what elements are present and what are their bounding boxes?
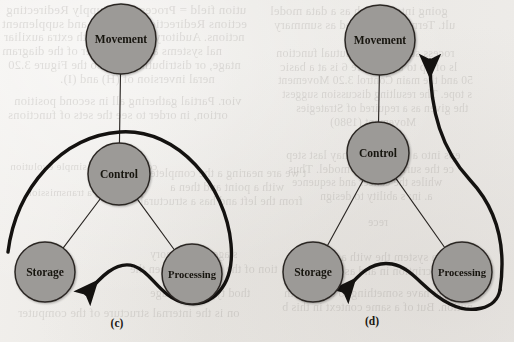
node-control-c[interactable]: Control	[88, 143, 150, 205]
node-label-movement: Movement	[95, 33, 148, 45]
node-movement-c[interactable]: Movement	[86, 4, 156, 74]
subfigure-caption-c: (c)	[111, 317, 124, 330]
subfigure-c: MovementControlStorageProcessing(c)	[8, 4, 231, 330]
node-label-control: Control	[100, 168, 138, 180]
block-diagram-svg: MovementControlStorageProcessing(c)Movem…	[0, 0, 514, 342]
node-label-movement: Movement	[354, 34, 407, 46]
node-processing-d[interactable]: Processing	[432, 242, 492, 302]
subfigure-d: MovementControlStorageProcessing(d)	[283, 5, 502, 328]
edge-control-processing	[137, 199, 174, 250]
edge-control-processing	[396, 178, 445, 247]
node-movement-d[interactable]: Movement	[345, 5, 415, 75]
figure-page: ution field = Processing; Supply Redirec…	[0, 0, 514, 342]
edge-control-storage	[327, 180, 363, 245]
node-processing-c[interactable]: Processing	[162, 244, 222, 304]
node-label-storage: Storage	[26, 266, 64, 279]
node-label-storage: Storage	[294, 266, 332, 279]
node-label-processing: Processing	[168, 269, 217, 280]
node-label-control: Control	[359, 147, 397, 159]
node-label-processing: Processing	[438, 267, 487, 278]
node-control-d[interactable]: Control	[347, 122, 409, 184]
edge-control-storage	[63, 199, 100, 248]
edge-movement-control	[379, 75, 380, 122]
subfigure-caption-d: (d)	[365, 315, 379, 328]
node-storage-c[interactable]: Storage	[15, 242, 75, 302]
node-storage-d[interactable]: Storage	[283, 242, 343, 302]
